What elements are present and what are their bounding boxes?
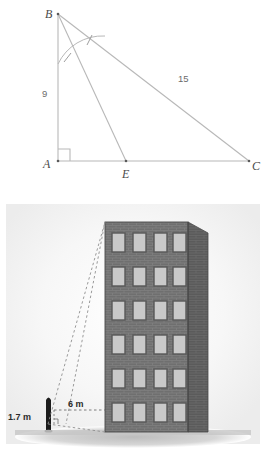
segment-bc (58, 14, 249, 161)
right-angle-mark-a (58, 149, 70, 161)
vertex-label-a: A (42, 157, 51, 171)
window (112, 403, 125, 422)
window (154, 233, 167, 252)
window (133, 267, 146, 286)
window (154, 301, 167, 320)
side-label-ab: 9 (42, 88, 47, 99)
window (133, 335, 146, 354)
window (173, 369, 186, 388)
building-svg: 1.7 m 6 m (0, 200, 266, 458)
vertex-label-c: C (252, 159, 261, 173)
window (154, 267, 167, 286)
vertex-label-b: B (45, 7, 53, 21)
window (133, 301, 146, 320)
angle-arc-abe (58, 43, 77, 64)
vertex-dot-e (125, 160, 128, 163)
window (112, 233, 125, 252)
building-illustration: 1.7 m 6 m (0, 200, 266, 458)
label-ground-distance: 6 m (68, 399, 84, 409)
vertex-label-e: E (121, 167, 130, 181)
window-row (112, 233, 125, 252)
window (173, 403, 186, 422)
vertex-dot-b (57, 13, 60, 16)
window (112, 369, 125, 388)
triangle-svg: B A E C 9 15 (0, 0, 266, 200)
window (154, 403, 167, 422)
vertex-dot-a (57, 160, 60, 163)
window (173, 233, 186, 252)
triangle-diagram: B A E C 9 15 (0, 0, 266, 200)
window (133, 233, 146, 252)
building-front-face (105, 222, 188, 432)
side-label-bc: 15 (178, 73, 189, 84)
window (112, 335, 125, 354)
window (154, 335, 167, 354)
vertex-dot-c (248, 160, 251, 163)
angle-tick-1 (64, 53, 71, 62)
window (173, 267, 186, 286)
figure-page: B A E C 9 15 (0, 0, 266, 458)
window (173, 301, 186, 320)
window (112, 301, 125, 320)
window (133, 369, 146, 388)
building-side-face (188, 222, 208, 432)
window (154, 369, 167, 388)
label-person-height: 1.7 m (8, 412, 31, 422)
window (133, 403, 146, 422)
window (173, 335, 186, 354)
window (112, 267, 125, 286)
